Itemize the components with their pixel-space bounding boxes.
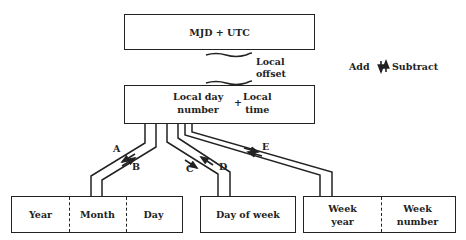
legend-add: Add [349,61,370,72]
local-day-time-box: Local day number + Local time [124,85,315,124]
path-label-a: A [113,143,120,154]
plus-sign: + [234,97,242,108]
local-time-label: Local time [243,91,272,115]
up-down-arrows-icon [379,60,389,74]
day-cell: Day [126,197,181,232]
local-offset-label: Local offset [256,56,286,79]
path-label-b: B [132,161,140,172]
week-box: Week year Week number [303,196,456,233]
day-of-week-box: Day of week [200,196,296,233]
path-label-d: D [219,161,227,172]
path-label-c: C [186,163,194,174]
path-label-e: E [262,141,269,152]
month-cell: Month [69,197,126,232]
local-day-number-label: Local day number [173,91,223,115]
mjd-utc-box: MJD + UTC [124,14,315,50]
day-of-week-label: Day of week [201,197,295,232]
year-cell: Year [12,197,69,232]
week-number-cell: Week number [381,197,454,232]
legend-subtract: Subtract [392,61,438,72]
mjd-utc-label: MJD + UTC [125,27,314,38]
week-year-cell: Week year [304,197,381,232]
calendar-date-box: Year Month Day [11,196,183,233]
